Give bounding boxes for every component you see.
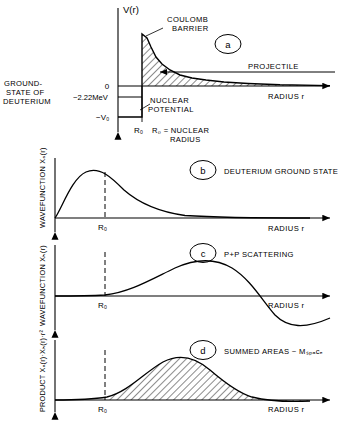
- panel-b: WAVEFUNCTION Xₐ(r) R₀ RADIUS r b DEUTERI…: [38, 147, 338, 233]
- panel-a-r0-tick-label: R₀: [134, 126, 143, 135]
- panel-a-yaxis-label: V(r): [123, 4, 139, 15]
- panel-b-badge-label: b: [200, 165, 205, 176]
- panel-a-coulomb-leader: [146, 28, 163, 36]
- panel-d-caption: SUMMED AREAS ~ Mₛₚₐᴄₑ: [224, 347, 323, 356]
- panel-a-ground-label-3: DEUTERIUM: [3, 97, 51, 106]
- panel-c-yaxis-label: WAVEFUNCTION Xₕ(r): [38, 245, 47, 326]
- panel-a: V(r) RADIUS r COULOMB BARRIER PROJECTILE…: [3, 4, 335, 144]
- panel-a-nuclear-label: NUCLEAR: [150, 96, 189, 105]
- panel-d: PRODUCT Xₐ(r)·Xₕ(r)·r² R₀ RADIUS r d SUM…: [38, 330, 330, 414]
- panel-a-ground-label-2: STATE OF: [6, 88, 44, 97]
- panel-b-wavefunction-curve: [55, 170, 310, 218]
- figure-canvas: V(r) RADIUS r COULOMB BARRIER PROJECTILE…: [0, 0, 353, 434]
- panel-a-xaxis-label: RADIUS r: [268, 92, 305, 101]
- panel-d-badge-label: d: [200, 345, 205, 356]
- panel-a-coulomb-label: COULOMB: [167, 15, 208, 24]
- panel-b-xaxis-label: RADIUS r: [268, 224, 305, 233]
- panel-b-caption: DEUTERIUM GROUND STATE: [224, 167, 338, 176]
- panel-c-badge-label: c: [201, 248, 206, 259]
- panel-a-v0-tick: −V₀: [96, 113, 109, 122]
- panel-b-yaxis-label: WAVEFUNCTION Xₐ(r): [38, 147, 47, 228]
- panel-b-r0-tick-label: R₀: [98, 223, 107, 232]
- panel-c-xaxis-label: RADIUS r: [268, 301, 305, 310]
- panel-a-barrier-label: BARRIER: [172, 24, 209, 33]
- panel-a-badge-label: a: [225, 39, 231, 50]
- panel-a-energy-tick: −2.22MeV: [73, 93, 109, 102]
- panel-a-r0-nuclear-label: R₀ = NUCLEAR: [152, 126, 209, 135]
- panel-a-radius-label: RADIUS: [170, 135, 201, 144]
- panel-c-wavefunction-curve: [55, 261, 330, 326]
- panel-a-projectile-label: PROJECTILE: [248, 62, 299, 71]
- panel-c-r0-tick-label: R₀: [98, 301, 107, 310]
- panel-c-caption: P+P SCATTERING: [224, 250, 294, 259]
- diagram-svg: V(r) RADIUS r COULOMB BARRIER PROJECTILE…: [0, 0, 353, 434]
- panel-d-yaxis-label: PRODUCT Xₐ(r)·Xₕ(r)·r²: [38, 330, 47, 412]
- panel-d-area-hatch: [107, 357, 310, 401]
- panel-c: WAVEFUNCTION Xₕ(r) R₀ RADIUS r c P+P SCA…: [38, 244, 330, 331]
- panel-a-zero-tick: 0: [105, 82, 110, 91]
- panel-d-xaxis-label: RADIUS r: [268, 405, 305, 414]
- panel-a-potential-label: POTENTIAL: [148, 105, 194, 114]
- panel-d-r0-tick-label: R₀: [98, 405, 107, 414]
- panel-a-ground-label-1: GROUND-: [4, 79, 43, 88]
- panel-a-barrier-hatch: [142, 34, 330, 86]
